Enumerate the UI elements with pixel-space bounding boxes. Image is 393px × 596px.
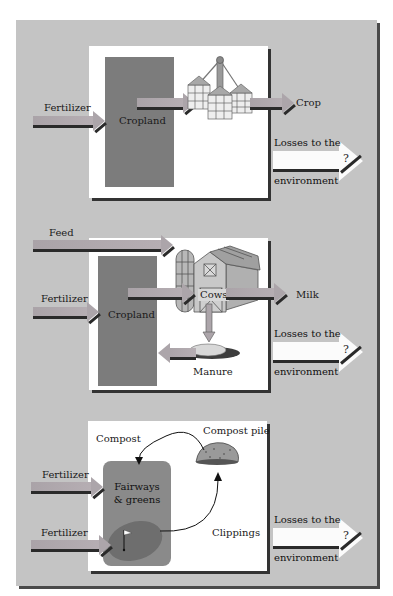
cropland-label: Cropland — [119, 116, 166, 126]
cows-label: Cows — [198, 289, 229, 301]
crop-label: Crop — [296, 98, 321, 108]
milk-label: Milk — [296, 290, 319, 300]
manure-to-cropland-arrow — [158, 348, 196, 357]
feed-label: Feed — [49, 228, 74, 238]
losses-arrow-3: Losses to the ? environment — [273, 514, 365, 562]
compost-cycle-arrows — [130, 420, 230, 550]
fertilizer-label: Fertilizer — [44, 103, 91, 113]
golf-fertilizer-arrow-2 — [31, 540, 111, 549]
dairy-fertilizer-arrow — [33, 307, 99, 316]
crop-output-arrow — [250, 98, 294, 107]
feed-arrow — [33, 240, 173, 249]
fertilizer-arrow — [33, 116, 105, 125]
golf-fertilizer-arrow-1 — [31, 482, 103, 491]
dairy-cropland-block — [98, 256, 157, 386]
dairy-cropland-label: Cropland — [108, 310, 155, 320]
cows-to-manure-arrow — [203, 304, 215, 344]
golf-fertilizer-label-2: Fertilizer — [41, 528, 88, 538]
golf-fertilizer-label-1: Fertilizer — [42, 470, 89, 480]
losses-arrow-1: Losses to the ? environment — [273, 137, 365, 185]
dairy-fertilizer-label: Fertilizer — [41, 294, 88, 304]
barn-and-silo-icon — [174, 242, 262, 317]
cropland-to-cows-arrow — [128, 288, 194, 297]
losses-arrow-2: Losses to the ? environment — [273, 328, 365, 376]
milk-output-arrow — [226, 288, 286, 297]
manure-label: Manure — [193, 367, 233, 377]
grain-silos-icon — [186, 55, 256, 123]
